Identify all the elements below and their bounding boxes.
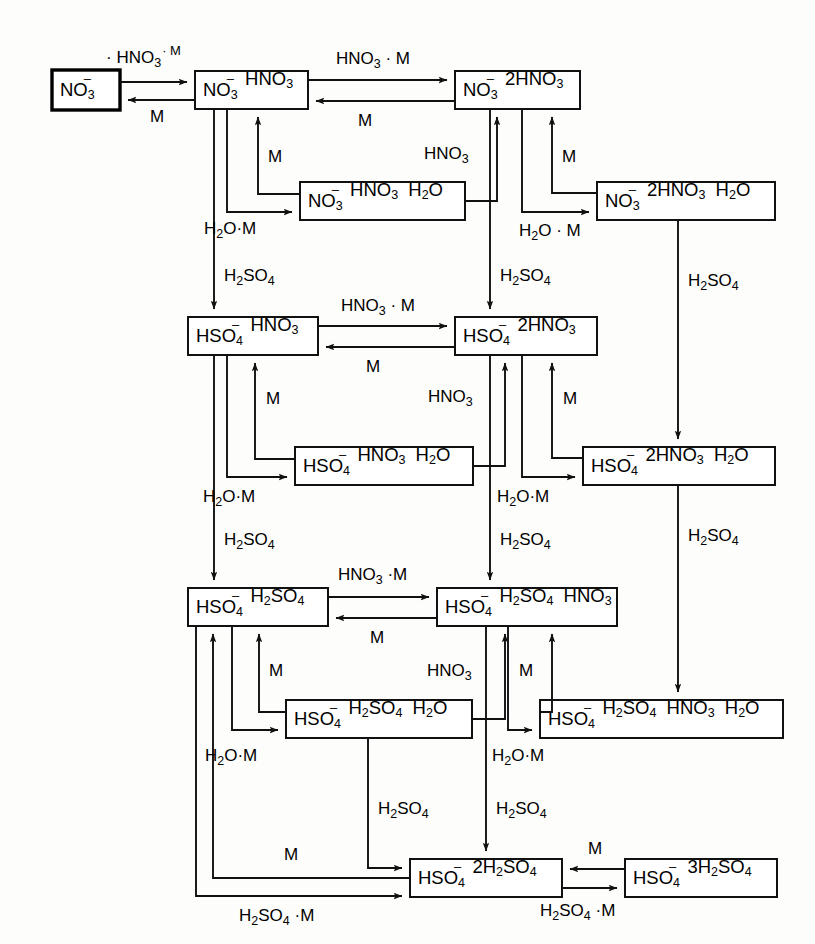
edge-label-e11: H2SO4 xyxy=(500,266,551,288)
edge-label-e18: M xyxy=(563,389,577,408)
edge-label-e13: HNO3 · M xyxy=(341,296,415,318)
edge-label-e35: H2SO4 ·M xyxy=(540,901,615,923)
edge-label-e3: HNO3 · M xyxy=(336,49,410,71)
edge-label-e10: H2SO4 xyxy=(224,266,275,288)
edge-label-e9: H2O · M xyxy=(519,221,581,243)
edge-label-e24: M xyxy=(370,628,384,647)
edge-hydrate-to-hso4h2so4hno3 xyxy=(472,634,505,719)
box-hso4-h2so4-hno3[interactable]: HSO4– H2SO4 HNO3 xyxy=(437,585,617,626)
edge-hydrate-to-hso4hno3 xyxy=(255,363,295,459)
edge-hydrate-to-hso42hno3 xyxy=(473,363,505,466)
box-no3-hno3[interactable]: NO3– HNO3 xyxy=(195,68,308,109)
edge-label-e7: HNO3 xyxy=(424,144,469,166)
box-hso4-hno3[interactable]: HSO4– HNO3 xyxy=(188,314,318,355)
edge-label-e8: M xyxy=(562,147,576,166)
edge-label-e34: M xyxy=(588,839,602,858)
box-hso4-h2so4-hno3-h2o[interactable]: HSO4– H2SO4 HNO3 H2O xyxy=(540,697,783,738)
edge-label-e2: M xyxy=(150,107,164,126)
edge-label-e27: HNO3 xyxy=(427,661,472,683)
box-no3-2hno3-h2o[interactable]: NO3– 2HNO3 H2O xyxy=(597,179,775,220)
edge-label-e17: HNO3 xyxy=(428,387,473,409)
edge-label-e12: H2SO4 xyxy=(688,271,739,293)
box-hso4-3h2so4[interactable]: HSO4– 3H2SO4 xyxy=(625,856,777,897)
edge-label-e15: M xyxy=(266,389,280,408)
box-no3[interactable]: NO3– xyxy=(52,70,120,110)
diagram-canvas: NO3– NO3– HNO3 NO3– 2HNO3 NO3– HNO3 H2O … xyxy=(0,0,815,944)
box-hso4-2hno3-h2o[interactable]: HSO4– 2HNO3 H2O xyxy=(583,444,775,485)
box-hso4-2h2so4[interactable]: HSO4– 2H2SO4 xyxy=(410,856,562,897)
edge-label-e16: H2O·M xyxy=(203,487,255,509)
edge-no32hno3-to-hydrate xyxy=(522,109,589,212)
edge-no3hno3-to-hydrate xyxy=(227,109,292,212)
box-hso4-h2so4-h2o[interactable]: HSO4– H2SO4 H2O xyxy=(286,697,472,738)
edge-label-e1: · HNO3· M xyxy=(106,43,181,70)
box-no3-hno3-h2o[interactable]: NO3– HNO3 H2O xyxy=(300,179,465,220)
edge-label-e14: M xyxy=(366,357,380,376)
edge-label-e30: H2SO4 xyxy=(378,799,429,821)
edge-label-e23: HNO3 ·M xyxy=(338,565,407,587)
edge-label-e22: H2SO4 xyxy=(688,526,739,548)
edge-label-e5: M xyxy=(268,147,282,166)
edge-label-e32: M xyxy=(284,845,298,864)
box-hso4-h2so4[interactable]: HSO4– H2SO4 xyxy=(188,585,328,626)
edge-label-e31: H2SO4 xyxy=(496,799,547,821)
box-no3-2hno3[interactable]: NO3– 2HNO3 xyxy=(455,68,580,109)
edge-label-e21: H2SO4 xyxy=(500,530,551,552)
edge-label-e25: M xyxy=(269,661,283,680)
box-hso4-hno3-h2o[interactable]: HSO4– HNO3 H2O xyxy=(295,444,473,485)
edge-label-e28: M xyxy=(519,661,533,680)
edge-hydrate-to-no32hno3 xyxy=(465,117,497,201)
edge-label-e6: H2O·M xyxy=(204,219,256,241)
edge-label-e19: H2O·M xyxy=(497,487,549,509)
edge-label-e33: H2SO4 ·M xyxy=(239,906,314,928)
edge-label-e4: M xyxy=(358,111,372,130)
edge-label-e26: H2O·M xyxy=(205,746,257,768)
edge-label-e29: H2O·M xyxy=(492,746,544,768)
edge-label-e20: H2SO4 xyxy=(224,530,275,552)
box-hso4-2hno3[interactable]: HSO4– 2HNO3 xyxy=(455,314,597,355)
reaction-scheme-svg: NO3– NO3– HNO3 NO3– 2HNO3 NO3– HNO3 H2O … xyxy=(0,0,815,944)
edge-hydrate2-to-hso42hno3 xyxy=(552,363,583,458)
